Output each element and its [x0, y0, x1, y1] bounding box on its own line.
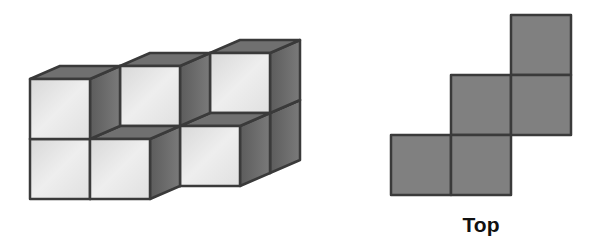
isometric-view [30, 40, 300, 199]
top-view-label: Top [451, 213, 511, 237]
cube-front-face [30, 79, 90, 139]
top-view-cell [451, 135, 511, 195]
top-view [391, 15, 571, 195]
cube-front-face [30, 139, 90, 199]
cube-diagram [0, 0, 601, 249]
top-view-cell [511, 15, 571, 75]
cube-front-face [90, 139, 150, 199]
top-view-cell [391, 135, 451, 195]
cube-front-face [120, 66, 180, 126]
top-view-cell [451, 75, 511, 135]
cube-front-face [180, 126, 240, 186]
cube-front-face [210, 53, 270, 113]
top-view-cell [511, 75, 571, 135]
